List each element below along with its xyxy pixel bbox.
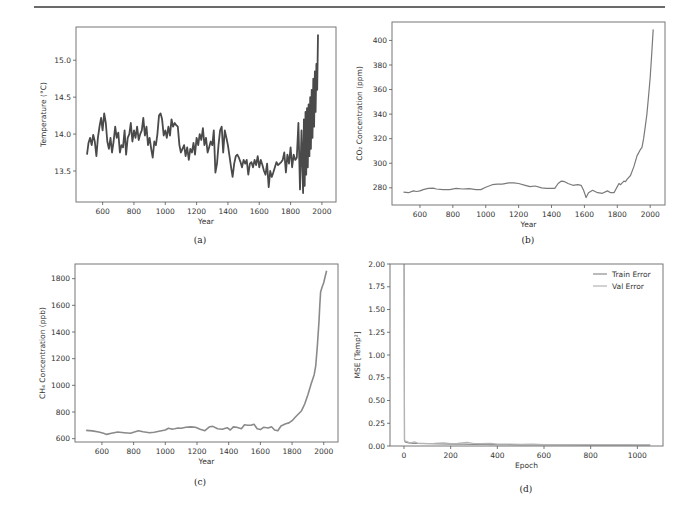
x-tick-label: 600 [413, 210, 428, 219]
x-tick-label: 800 [126, 447, 141, 456]
x-tick-label: 1400 [542, 210, 561, 219]
y-tick-label: 0.00 [368, 442, 385, 451]
x-tick-label: 200 [444, 451, 459, 460]
chart-co2: 6008001000120014001600180020002803003203… [343, 0, 686, 230]
x-tick-label: 400 [490, 451, 505, 460]
y-tick-label: 0.50 [368, 396, 385, 405]
legend-label: Val Error [612, 282, 645, 291]
axes-frame [76, 27, 336, 202]
y-tick-label: 14.0 [54, 130, 71, 139]
y-tick-label: 1800 [51, 274, 70, 283]
x-tick-label: 800 [127, 207, 142, 216]
x-tick-label: 600 [95, 447, 110, 456]
series-co2 [404, 29, 654, 197]
y-tick-label: 2.00 [368, 260, 385, 269]
x-tick-label: 1200 [509, 210, 528, 219]
y-tick-label: 13.5 [54, 167, 71, 176]
y-tick-label: 400 [373, 36, 388, 45]
caption-c: (c) [180, 477, 220, 487]
series-ch4 [86, 271, 327, 435]
x-tick-label: 1800 [608, 210, 627, 219]
x-tick-label: 1000 [156, 447, 175, 456]
y-tick-label: 1600 [51, 301, 70, 310]
y-tick-label: 14.5 [54, 93, 71, 102]
y-tick-label: 0.25 [368, 419, 385, 428]
y-tick-label: 320 [373, 134, 388, 143]
y-tick-label: 600 [56, 434, 71, 443]
x-tick-label: 1600 [251, 447, 270, 456]
y-axis-label: MSE [Temp²] [353, 331, 362, 378]
x-tick-label: 1800 [281, 207, 300, 216]
caption-a: (a) [180, 235, 220, 245]
x-tick-label: 600 [537, 451, 552, 460]
legend: Train ErrorVal Error [593, 270, 652, 291]
y-tick-label: 280 [373, 183, 388, 192]
y-tick-label: 340 [373, 110, 388, 119]
x-tick-label: 1000 [476, 210, 495, 219]
axes-frame [75, 264, 338, 442]
y-axis-label: CH₄ Concentration (ppb) [38, 307, 47, 399]
y-tick-label: 1400 [51, 328, 70, 337]
x-tick-label: 800 [446, 210, 461, 219]
x-tick-label: 1800 [283, 447, 302, 456]
chart-temperature: 60080010001200140016001800200013.514.014… [0, 0, 343, 230]
plot-area [404, 29, 654, 197]
x-tick-label: 600 [95, 207, 110, 216]
series-train-error [404, 250, 650, 445]
y-tick-label: 1.25 [368, 328, 385, 337]
x-tick-label: 1000 [156, 207, 175, 216]
x-tick-label: 1200 [187, 207, 206, 216]
x-tick-label: 2000 [314, 447, 333, 456]
y-tick-label: 360 [373, 85, 388, 94]
caption-b: (b) [508, 235, 548, 245]
x-tick-label: 1400 [219, 447, 238, 456]
x-axis-label: Year [198, 457, 216, 466]
y-tick-label: 1.75 [368, 282, 385, 291]
plot-area [87, 34, 318, 193]
y-tick-label: 1.00 [368, 351, 385, 360]
x-axis-label: Epoch [515, 461, 538, 470]
y-axis-label: CO₂ Concentration (ppm) [355, 66, 364, 161]
chart-training-error: 020040060080010000.000.250.500.751.001.2… [343, 250, 686, 480]
x-tick-label: 1400 [218, 207, 237, 216]
x-tick-label: 800 [584, 451, 599, 460]
series-temperature [87, 34, 318, 193]
y-tick-label: 800 [56, 408, 71, 417]
plot-area [86, 271, 327, 435]
caption-d: (d) [506, 484, 546, 494]
x-tick-label: 0 [402, 451, 407, 460]
legend-label: Train Error [611, 270, 652, 279]
x-tick-label: 2000 [641, 210, 660, 219]
y-tick-label: 0.75 [368, 373, 385, 382]
axes-frame [392, 22, 665, 205]
x-axis-label: Year [197, 217, 215, 226]
y-tick-label: 300 [373, 159, 388, 168]
y-tick-label: 1.50 [368, 305, 385, 314]
x-tick-label: 1600 [250, 207, 269, 216]
chart-ch4: 6008001000120014001600180020006008001000… [0, 250, 343, 480]
series-val-error [404, 250, 650, 445]
x-tick-label: 1200 [187, 447, 206, 456]
axes-frame [390, 264, 663, 446]
x-tick-label: 2000 [312, 207, 331, 216]
y-tick-label: 380 [373, 61, 388, 70]
x-tick-label: 1000 [628, 451, 647, 460]
x-axis-label: Year [520, 220, 538, 229]
plot-area [404, 250, 650, 445]
y-tick-label: 1200 [51, 354, 70, 363]
x-tick-label: 1600 [575, 210, 594, 219]
y-axis-label: Temperature (°C) [39, 82, 48, 148]
y-tick-label: 1000 [51, 381, 70, 390]
y-tick-label: 15.0 [54, 56, 71, 65]
